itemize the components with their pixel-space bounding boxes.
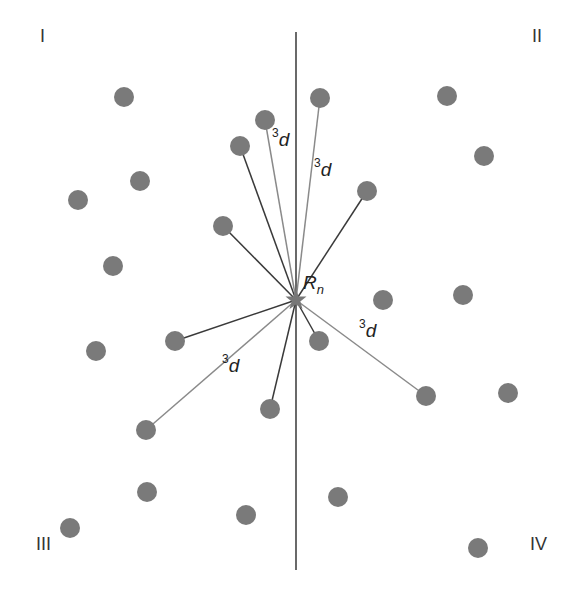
lattice-site-dot (103, 256, 123, 276)
center-label-base: R (303, 272, 317, 293)
lattice-site-dot (260, 399, 280, 419)
center-label-sub: n (317, 282, 324, 297)
lattice-site-dot (60, 518, 80, 538)
quadrant-label-II: II (532, 26, 542, 47)
lattice-site-dot (328, 487, 348, 507)
bond-line-near (270, 300, 296, 409)
lattice-site-dot (68, 190, 88, 210)
lattice-site-dot (309, 331, 329, 351)
lattice-sites (60, 86, 518, 558)
center-site-label: Rn (303, 272, 324, 297)
lattice-site-dot (468, 538, 488, 558)
third-neighbor-distance-label: 3d (359, 319, 376, 342)
lattice-diagram (0, 0, 583, 603)
quadrant-label-III: III (36, 534, 51, 555)
lattice-site-dot (453, 285, 473, 305)
lattice-site-dot (86, 341, 106, 361)
lattice-site-dot (236, 505, 256, 525)
third-neighbor-distance-label: 3d (272, 128, 289, 151)
bond-line-near (175, 300, 296, 341)
lattice-site-dot (165, 331, 185, 351)
third-neighbor-distance-label: 3d (222, 354, 239, 377)
lattice-site-dot (437, 86, 457, 106)
lattice-site-dot (130, 171, 150, 191)
lattice-site-dot (137, 482, 157, 502)
lattice-site-dot (474, 146, 494, 166)
quadrant-label-I: I (40, 26, 45, 47)
lattice-site-dot (213, 216, 233, 236)
lattice-site-dot (498, 383, 518, 403)
lattice-site-dot (357, 181, 377, 201)
quadrant-label-IV: IV (530, 534, 547, 555)
lattice-site-dot (373, 290, 393, 310)
lattice-site-dot (136, 420, 156, 440)
third-neighbor-distance-label: 3d (314, 158, 331, 181)
bond-line-near (240, 146, 296, 300)
lattice-site-dot (114, 87, 134, 107)
lattice-site-dot (230, 136, 250, 156)
lattice-site-dot (416, 386, 436, 406)
lattice-site-dot (310, 88, 330, 108)
